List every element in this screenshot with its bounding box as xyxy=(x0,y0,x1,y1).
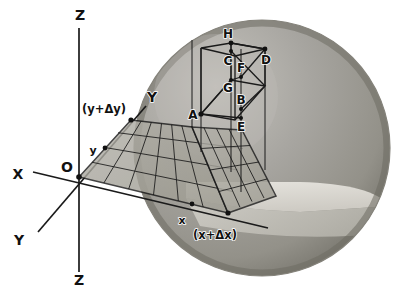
vertex-label-F: F xyxy=(237,61,245,75)
vertex-label-E: E xyxy=(237,120,245,134)
tick-label-y: y xyxy=(89,144,96,157)
tick-label-y-plus-dy: (y+Δy) xyxy=(82,102,126,116)
diagram-svg: Z Z X Y Y O y (y+Δy) x (x+Δx) H C D F G … xyxy=(0,0,394,295)
vertex-label-D: D xyxy=(261,53,271,67)
marker-C xyxy=(229,49,233,53)
vertex-label-B: B xyxy=(236,93,245,107)
figure-canvas: Z Z X Y Y O y (y+Δy) x (x+Δx) H C D F G … xyxy=(0,0,394,295)
marker-y-dy-tick xyxy=(128,117,133,122)
axis-label-x-negative: X xyxy=(13,166,24,182)
marker-origin xyxy=(76,174,82,180)
marker-x-dx-tick xyxy=(225,210,230,215)
marker-D xyxy=(263,47,268,52)
axis-label-origin: O xyxy=(61,159,73,175)
marker-B xyxy=(239,107,243,111)
marker-H xyxy=(229,41,234,46)
vertex-label-A: A xyxy=(188,108,198,122)
axis-label-z-bottom: Z xyxy=(74,272,84,288)
marker-y-tick xyxy=(103,146,108,151)
axis-label-z-top: Z xyxy=(75,7,85,23)
vertex-label-C: C xyxy=(224,54,233,68)
vertex-label-H: H xyxy=(223,27,233,41)
marker-x-tick xyxy=(190,202,195,207)
tick-label-x: x xyxy=(178,214,185,227)
marker-F xyxy=(239,75,243,79)
marker-A xyxy=(198,111,203,116)
axis-label-y-far: Y xyxy=(146,89,158,105)
vertex-label-G: G xyxy=(223,81,233,95)
tick-label-x-plus-dx: (x+Δx) xyxy=(193,228,237,242)
axis-label-y-near: Y xyxy=(13,232,25,248)
